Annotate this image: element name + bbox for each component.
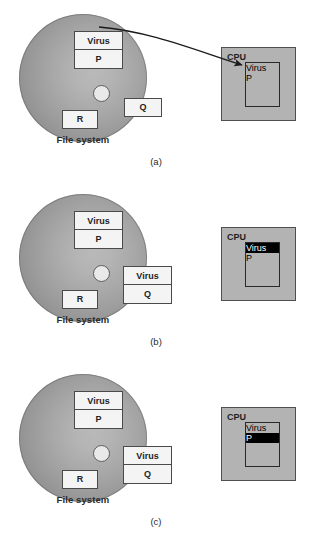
file-system-label-b: File system bbox=[19, 314, 147, 325]
disk-hub-icon-c bbox=[93, 445, 110, 462]
disk-file-r-b: R bbox=[62, 290, 98, 309]
panel-b: Virus P Virus Q R File system CPU Virus … bbox=[0, 180, 316, 363]
panel-a: Virus P Q R File system CPU Virus P (a) bbox=[0, 0, 316, 183]
cpu-row-virus-c: Virus bbox=[246, 423, 279, 433]
file-system-disk-c: Virus P Virus Q R File system bbox=[19, 374, 147, 502]
disk-file-virus-p-c: Virus P bbox=[74, 391, 123, 429]
cpu-process-virus-p-c: Virus P bbox=[245, 422, 280, 467]
disk-hub-icon-b bbox=[93, 265, 110, 282]
cpu-row-p-b: P bbox=[246, 253, 279, 263]
cpu-row-p-c: P bbox=[246, 433, 279, 443]
disk-file-virus-p-c-row-virus: Virus bbox=[75, 392, 122, 410]
panel-caption-b: (b) bbox=[128, 336, 184, 347]
file-system-label-c: File system bbox=[19, 494, 147, 505]
disk-file-virus-p-b-row-p: P bbox=[75, 230, 122, 248]
cpu-label-c: CPU bbox=[227, 412, 246, 422]
cpu-box-c: CPU Virus P bbox=[221, 407, 296, 481]
disk-file-r-c: R bbox=[62, 470, 98, 489]
disk-file-virus-p-c-row-p: P bbox=[75, 410, 122, 428]
disk-file-virus-q-b-row-q: Q bbox=[124, 285, 171, 303]
disk-file-virus-p-b: Virus P bbox=[74, 211, 123, 249]
disk-file-virus-p-b-row-virus: Virus bbox=[75, 212, 122, 230]
panel-c: Virus P Virus Q R File system CPU Virus … bbox=[0, 360, 316, 543]
cpu-process-virus-p-b: Virus P bbox=[245, 242, 280, 287]
cpu-row-virus-b: Virus bbox=[246, 243, 279, 253]
disk-file-virus-q-b-row-virus: Virus bbox=[124, 267, 171, 285]
disk-file-virus-q-c: Virus Q bbox=[123, 446, 172, 484]
panel-caption-a: (a) bbox=[128, 156, 184, 167]
disk-file-virus-q-b: Virus Q bbox=[123, 266, 172, 304]
file-system-disk-b: Virus P Virus Q R File system bbox=[19, 194, 147, 322]
panel-caption-c: (c) bbox=[128, 516, 184, 527]
cpu-label-b: CPU bbox=[227, 232, 246, 242]
cpu-box-b: CPU Virus P bbox=[221, 227, 296, 301]
disk-file-virus-q-c-row-virus: Virus bbox=[124, 447, 171, 465]
disk-file-virus-q-c-row-q: Q bbox=[124, 465, 171, 483]
